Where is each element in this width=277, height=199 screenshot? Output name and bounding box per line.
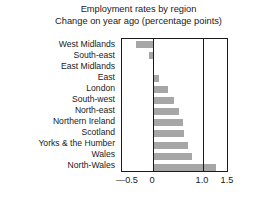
- bar: [153, 142, 188, 149]
- category-label-wales: Wales: [91, 149, 115, 159]
- category-label-west-midlands: West Midlands: [59, 39, 115, 49]
- bar: [153, 86, 168, 93]
- value-axis-labels: —0.501.01.5: [0, 174, 277, 190]
- chart-title-block: Employment rates by region Change on yea…: [0, 3, 277, 27]
- zero-gridline: [153, 39, 154, 171]
- bar: [153, 130, 184, 137]
- bar: [153, 97, 174, 104]
- value-axis-tick-label: 0: [149, 174, 154, 186]
- plot-area: [121, 38, 228, 172]
- chart-title: Employment rates by region: [0, 3, 277, 15]
- category-label-yorks-and-the-humber: Yorks & the Humber: [38, 138, 115, 148]
- bar: [153, 164, 216, 171]
- category-label-south-east: South-east: [73, 50, 115, 60]
- category-label-london: London: [86, 83, 115, 93]
- category-label-north-wales: North-Wales: [68, 160, 115, 170]
- chart-subtitle: Change on year ago (percentage points): [0, 15, 277, 27]
- value-axis-tick-label: 1.0: [196, 174, 209, 186]
- value-axis-tick-label: —0.5: [116, 174, 138, 186]
- category-label-east-midlands: East Midlands: [61, 61, 115, 71]
- category-label-east: East: [98, 72, 115, 82]
- category-axis-labels: West Midlands South-east East Midlands E…: [0, 38, 118, 172]
- bar: [153, 75, 159, 82]
- category-label-scotland: Scotland: [82, 127, 115, 137]
- bar: [153, 153, 192, 160]
- chart-container: Employment rates by region Change on yea…: [0, 0, 277, 199]
- category-label-northern-ireland: Northern Ireland: [53, 116, 115, 126]
- bar: [153, 108, 179, 115]
- category-label-north-east: North-east: [75, 105, 115, 115]
- bar: [153, 119, 183, 126]
- bar: [136, 41, 154, 48]
- gridline-1-0: [203, 39, 204, 171]
- category-label-south-west: South-west: [72, 94, 115, 104]
- value-axis-tick-label: 1.5: [221, 174, 234, 186]
- bars-layer: [122, 39, 227, 171]
